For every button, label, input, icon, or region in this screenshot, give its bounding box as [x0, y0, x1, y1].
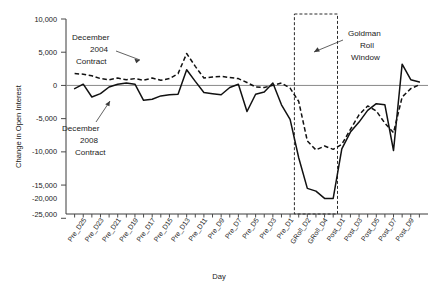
- y-axis-title: Change in Open Interest: [14, 84, 23, 168]
- y-tick-label: -20,000: [32, 194, 57, 203]
- annotation-december-2008: December 2008 Contract: [62, 101, 110, 157]
- y-tick-label: -15,000: [32, 181, 57, 190]
- series-line-december-2004: [75, 54, 420, 150]
- annotation-line: Window: [351, 53, 380, 62]
- annotation-goldman-roll-window: Goldman Roll Window: [314, 29, 381, 62]
- chart-svg: 10,000 5,000 0 -5,000 -10,000 -15,000 -2…: [0, 0, 436, 286]
- annotation-line: Goldman: [348, 29, 381, 38]
- annotation-line: 2008: [80, 136, 99, 145]
- annotation-leader-line: [116, 51, 140, 60]
- series-line-december-2008: [75, 64, 420, 198]
- y-tick-label: -25,000: [32, 210, 57, 219]
- x-tick-label-group: Pre_D25Pre_D23Pre_D21Pre_D19Pre_D17Pre_D…: [66, 216, 416, 245]
- x-axis-title: Day: [212, 272, 226, 281]
- y-tick-label: -5,000: [36, 114, 57, 123]
- annotation-line: Contract: [76, 57, 107, 66]
- y-tick-label: 0: [53, 81, 57, 90]
- annotation-line: 2004: [90, 45, 109, 54]
- y-tick-label: -10,000: [32, 147, 57, 156]
- annotation-december-2004: December 2004 Contract: [72, 33, 140, 66]
- y-tick-label: 5,000: [39, 48, 58, 57]
- annotation-line: Contract: [75, 148, 106, 157]
- annotation-line: December: [72, 33, 110, 42]
- x-tick-group: [75, 214, 420, 218]
- y-tick-label: 10,000: [34, 15, 57, 24]
- annotation-line: December: [62, 124, 100, 133]
- chart-figure: 10,000 5,000 0 -5,000 -10,000 -15,000 -2…: [0, 0, 436, 286]
- annotation-arrow-head: [105, 101, 110, 106]
- annotation-line: Roll: [360, 41, 374, 50]
- y-tick-group: 10,000 5,000 0 -5,000 -10,000 -15,000 -2…: [32, 15, 66, 219]
